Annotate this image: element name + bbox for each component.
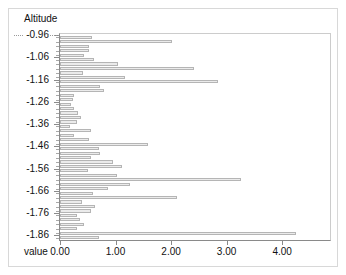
bar xyxy=(60,183,130,186)
bar xyxy=(60,169,88,172)
bar xyxy=(60,174,117,177)
bar xyxy=(60,94,74,97)
x-axis-tick-label: 0.00 xyxy=(40,246,80,257)
y-axis-tick-label: -1.06 xyxy=(5,51,49,62)
bar xyxy=(60,160,113,163)
y-axis-tick-label: -1.66 xyxy=(5,185,49,196)
y-axis-tick-label: -1.16 xyxy=(5,74,49,85)
bar xyxy=(60,165,122,168)
bar xyxy=(60,200,82,203)
bar xyxy=(60,134,74,137)
bar xyxy=(60,54,84,57)
bar xyxy=(60,125,70,128)
bar xyxy=(60,98,73,101)
bar xyxy=(60,103,71,106)
bar xyxy=(60,187,108,190)
bar xyxy=(60,227,77,230)
bar xyxy=(60,178,241,181)
bar xyxy=(60,49,89,52)
x-axis-tick-label: 1.00 xyxy=(96,246,136,257)
bar xyxy=(60,62,118,65)
x-axis-tick-label: 4.00 xyxy=(262,246,302,257)
bar xyxy=(60,89,104,92)
x-axis-tick-label: 3.00 xyxy=(207,246,247,257)
y-axis-tick-label: -1.76 xyxy=(5,207,49,218)
y-axis-tick-label: -0.96 xyxy=(5,29,49,40)
bar xyxy=(60,36,92,39)
bar xyxy=(60,156,91,159)
bar xyxy=(60,85,100,88)
bar xyxy=(60,45,89,48)
bar xyxy=(60,192,93,195)
bar xyxy=(60,40,172,43)
y-axis-title: Altitude xyxy=(24,13,57,24)
y-axis-tick-label: -1.26 xyxy=(5,96,49,107)
bar xyxy=(60,232,296,235)
bar xyxy=(60,205,95,208)
bar xyxy=(60,147,99,150)
bar xyxy=(60,107,74,110)
x-axis-tick-label: 2.00 xyxy=(151,246,191,257)
bar xyxy=(60,67,194,70)
bar xyxy=(60,209,91,212)
y-axis-tick-label: -1.86 xyxy=(5,229,49,240)
bar xyxy=(60,80,218,83)
bar xyxy=(60,129,91,132)
bar xyxy=(60,111,78,114)
bar xyxy=(60,138,89,141)
chart-screenshot: Altitude value -0.96-1.06-1.16-1.26-1.36… xyxy=(0,0,346,275)
bar xyxy=(60,76,125,79)
y-axis-leader-line-inner xyxy=(47,35,59,36)
y-axis-tick-label: -1.46 xyxy=(5,140,49,151)
bar xyxy=(60,152,100,155)
bar xyxy=(60,236,99,239)
y-axis-tick-label: -1.36 xyxy=(5,118,49,129)
bar xyxy=(60,196,177,199)
bar xyxy=(60,58,94,61)
bar-series xyxy=(60,34,331,241)
bar xyxy=(60,218,80,221)
bar xyxy=(60,214,77,217)
bar xyxy=(60,116,81,119)
bar xyxy=(60,71,83,74)
bar xyxy=(60,143,148,146)
y-axis-leader-line xyxy=(14,35,23,36)
y-axis-tick-label: -1.56 xyxy=(5,163,49,174)
bar xyxy=(60,120,77,123)
bar xyxy=(60,223,84,226)
